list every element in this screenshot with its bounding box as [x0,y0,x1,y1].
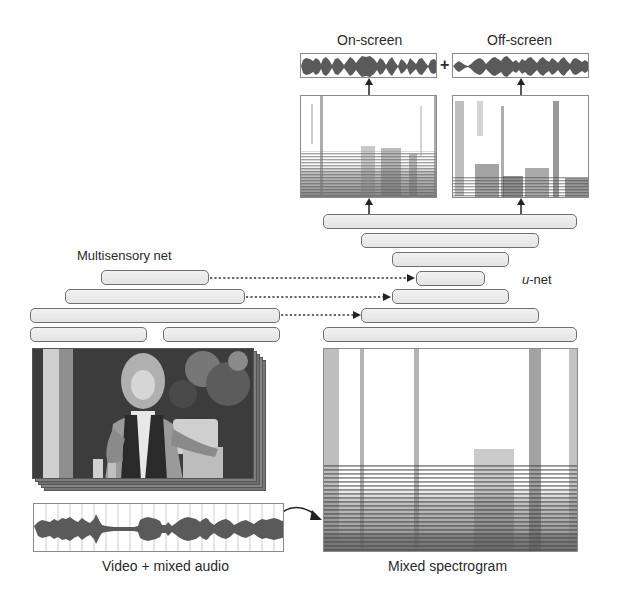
mixed-spectrogram-label: Mixed spectrogram [388,558,507,574]
mixed-spectrogram [323,348,578,552]
video-scene-image [33,349,254,479]
skip-arrowhead-2-icon [383,293,391,301]
mixed-audio-waveform [33,503,284,552]
curved-arrowhead-icon [310,510,322,520]
skip-arrowhead-3-icon [353,311,361,319]
skip-arrowhead-1-icon [407,274,415,282]
video-frame-front [32,348,254,479]
video-mixed-audio-label: Video + mixed audio [102,558,229,574]
